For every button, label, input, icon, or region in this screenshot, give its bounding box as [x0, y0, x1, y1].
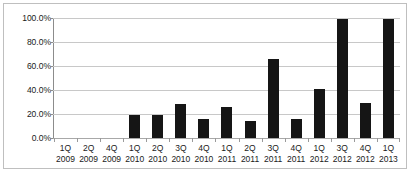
x-axis-label: 4Q2012: [354, 143, 377, 165]
bar-slot: [354, 18, 377, 138]
bar-slot: [192, 18, 215, 138]
bar-slot: [100, 18, 123, 138]
x-axis-tick: [354, 138, 377, 142]
bar: [291, 119, 302, 138]
x-axis-tick-end: [399, 138, 400, 142]
bar: [337, 19, 348, 138]
chart-frame: 0.0%20.0%40.0%60.0%80.0%100.0% 1Q20092Q2…: [3, 3, 407, 169]
y-axis-tick: [50, 42, 53, 43]
x-axis-label-quarter: 1Q: [215, 143, 238, 154]
x-axis-tick: [308, 138, 331, 142]
x-axis-label: 2Q2011: [239, 143, 262, 165]
bar-slot: [308, 18, 331, 138]
bar: [175, 104, 186, 138]
bar-slot: [215, 18, 238, 138]
bar-slot: [285, 18, 308, 138]
x-axis-label-year: 2012: [308, 154, 331, 165]
y-axis-label: 80.0%: [5, 38, 51, 47]
x-axis-tick: [377, 138, 400, 142]
bar-slot: [123, 18, 146, 138]
x-axis-label-year: 2011: [285, 154, 308, 165]
x-axis-label-year: 2010: [123, 154, 146, 165]
y-axis-label: 20.0%: [5, 110, 51, 119]
x-axis-label-quarter: 1Q: [377, 143, 400, 154]
y-axis-label: 40.0%: [5, 86, 51, 95]
bar-slot: [262, 18, 285, 138]
bar-slot: [239, 18, 262, 138]
x-axis-tick: [262, 138, 285, 142]
x-axis-label: 1Q2011: [215, 143, 238, 165]
x-axis-label-quarter: 2Q: [239, 143, 262, 154]
bar-slot: [146, 18, 169, 138]
bar-slot: [331, 18, 354, 138]
x-axis-label-quarter: 3Q: [262, 143, 285, 154]
bar: [245, 121, 256, 138]
x-axis-label-quarter: 2Q: [77, 143, 100, 154]
bar: [129, 115, 140, 138]
x-axis-label-quarter: 3Q: [331, 143, 354, 154]
x-axis-label: 4Q2011: [285, 143, 308, 165]
bar: [268, 59, 279, 138]
x-axis-label-year: 2010: [146, 154, 169, 165]
x-axis-tick: [285, 138, 308, 142]
x-axis-label: 1Q2009: [54, 143, 77, 165]
x-axis-label-quarter: 2Q: [146, 143, 169, 154]
x-axis-tick: [215, 138, 238, 142]
x-axis-label: 3Q2010: [169, 143, 192, 165]
x-axis-label: 4Q2009: [100, 143, 123, 165]
x-axis-label: 1Q2010: [123, 143, 146, 165]
x-axis-label-year: 2011: [215, 154, 238, 165]
x-axis-label-quarter: 4Q: [354, 143, 377, 154]
x-axis-label-year: 2009: [54, 154, 77, 165]
x-axis-label-year: 2010: [169, 154, 192, 165]
y-axis-tick: [50, 138, 53, 139]
y-axis-label: 60.0%: [5, 62, 51, 71]
bar: [360, 103, 371, 138]
x-axis-tick: [77, 138, 100, 142]
y-axis-tick: [50, 66, 53, 67]
x-axis-tick: [54, 138, 77, 142]
x-axis-label-year: 2012: [354, 154, 377, 165]
x-axis-tick: [100, 138, 123, 142]
x-axis-label: 1Q2013: [377, 143, 400, 165]
x-axis-label-quarter: 4Q: [285, 143, 308, 154]
x-axis-label-quarter: 4Q: [100, 143, 123, 154]
x-axis-label: 3Q2011: [262, 143, 285, 165]
x-axis-label: 2Q2010: [146, 143, 169, 165]
bar: [383, 19, 394, 138]
y-axis-tick: [50, 90, 53, 91]
x-axis-label-year: 2011: [262, 154, 285, 165]
bar: [314, 89, 325, 138]
bar-slot: [169, 18, 192, 138]
x-axis-tick: [331, 138, 354, 142]
x-axis-label-quarter: 1Q: [308, 143, 331, 154]
x-axis-label: 3Q2012: [331, 143, 354, 165]
x-axis-label-quarter: 4Q: [192, 143, 215, 154]
bar-series: [54, 18, 400, 138]
x-axis-label-year: 2009: [100, 154, 123, 165]
x-axis-label: 2Q2009: [77, 143, 100, 165]
x-axis-label-year: 2011: [239, 154, 262, 165]
bar-slot: [54, 18, 77, 138]
y-axis-tick: [50, 18, 53, 19]
x-axis-label-year: 2010: [192, 154, 215, 165]
x-axis-tick: [146, 138, 169, 142]
bar: [198, 119, 209, 138]
x-axis-ticks: [54, 138, 400, 142]
x-axis-tick: [192, 138, 215, 142]
x-axis-tick: [169, 138, 192, 142]
y-axis-tick-labels: 0.0%20.0%40.0%60.0%80.0%100.0%: [4, 18, 51, 138]
x-axis-label-quarter: 1Q: [54, 143, 77, 154]
bar-slot: [377, 18, 400, 138]
x-axis-label-quarter: 3Q: [169, 143, 192, 154]
y-axis-label: 0.0%: [5, 134, 51, 143]
x-axis-tick-labels: 1Q20092Q20094Q20091Q20102Q20103Q20104Q20…: [54, 143, 400, 165]
x-axis-label-quarter: 1Q: [123, 143, 146, 154]
x-axis-tick: [123, 138, 146, 142]
x-axis-label-year: 2012: [331, 154, 354, 165]
x-axis-label: 4Q2010: [192, 143, 215, 165]
bar: [152, 115, 163, 138]
bar: [221, 107, 232, 138]
bar-slot: [77, 18, 100, 138]
x-axis-label: 1Q2012: [308, 143, 331, 165]
